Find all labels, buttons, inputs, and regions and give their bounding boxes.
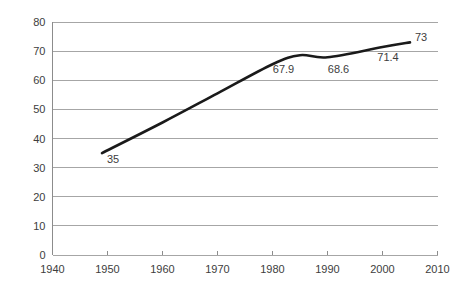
x-tick-label: 2000 bbox=[370, 263, 394, 275]
y-tick-label: 20 bbox=[33, 191, 45, 203]
y-tick-label: 10 bbox=[33, 220, 45, 232]
y-tick-label: 70 bbox=[33, 45, 45, 57]
y-tick-label: 30 bbox=[33, 162, 45, 174]
x-axis-tick-marks bbox=[53, 251, 438, 255]
x-axis-tick-labels: 19401950196019701980199020002010 bbox=[40, 263, 449, 275]
chart-canvas: 01020304050607080 1940195019601970198019… bbox=[0, 0, 459, 290]
x-tick-label: 2010 bbox=[425, 263, 449, 275]
x-tick-label: 1970 bbox=[205, 263, 229, 275]
data-point-label: 73 bbox=[415, 31, 427, 43]
x-tick-label: 1980 bbox=[260, 263, 284, 275]
data-point-label: 71.4 bbox=[377, 51, 398, 63]
data-point-label: 35 bbox=[107, 153, 119, 165]
data-point-label: 68.6 bbox=[328, 63, 349, 75]
y-tick-label: 0 bbox=[39, 249, 45, 261]
y-tick-label: 50 bbox=[33, 103, 45, 115]
x-tick-label: 1950 bbox=[95, 263, 119, 275]
data-point-label: 67.9 bbox=[273, 63, 294, 75]
x-tick-label: 1990 bbox=[315, 263, 339, 275]
x-tick-label: 1940 bbox=[40, 263, 64, 275]
data-line-series-1 bbox=[102, 42, 410, 153]
y-tick-label: 80 bbox=[33, 16, 45, 28]
y-tick-label: 40 bbox=[33, 133, 45, 145]
y-tick-label: 60 bbox=[33, 74, 45, 86]
line-chart: 01020304050607080 1940195019601970198019… bbox=[0, 0, 459, 290]
x-tick-label: 1960 bbox=[150, 263, 174, 275]
y-axis-tick-labels: 01020304050607080 bbox=[33, 16, 45, 261]
